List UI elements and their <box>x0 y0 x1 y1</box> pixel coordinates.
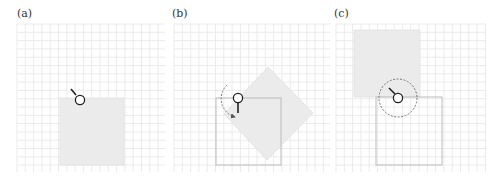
figure-canvas: (a) (b) (c) <box>0 0 499 180</box>
pivot-circle-b <box>233 93 242 102</box>
panel-label-b: (b) <box>172 7 188 20</box>
pivot-circle-c <box>393 93 402 102</box>
panel-label-a: (a) <box>17 7 32 20</box>
rotated-square-b <box>224 67 313 160</box>
panel-b: (b) <box>172 7 330 172</box>
pivot-circle-a <box>75 95 84 104</box>
panel-a: (a) <box>17 7 165 172</box>
translated-square-c <box>354 30 420 97</box>
filled-square-a <box>60 98 124 165</box>
panel-label-c: (c) <box>334 7 349 20</box>
panel-c: (c) <box>334 7 486 172</box>
